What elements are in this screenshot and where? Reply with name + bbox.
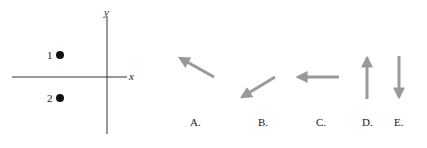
option-a: A. xyxy=(180,58,214,128)
option-b: B. xyxy=(242,77,275,128)
arrow-up-left-icon xyxy=(180,58,214,77)
point-1-dot xyxy=(56,51,64,59)
option-d-label: D. xyxy=(362,116,373,128)
option-c: C. xyxy=(298,77,339,128)
option-d: D. xyxy=(362,58,373,128)
point-1-label: 1 xyxy=(47,49,53,61)
y-axis-label: y xyxy=(103,6,109,18)
point-2-label: 2 xyxy=(47,92,53,104)
x-axis-label: x xyxy=(128,70,134,82)
point-2: 2 xyxy=(47,92,64,104)
option-b-label: B. xyxy=(258,116,268,128)
option-e: E. xyxy=(394,56,404,128)
option-a-label: A. xyxy=(190,116,201,128)
arrow-down-left-icon xyxy=(242,77,275,97)
point-2-dot xyxy=(56,94,64,102)
diagram-canvas: x y 1 2 A. B. C. D. E. xyxy=(0,0,427,148)
option-e-label: E. xyxy=(394,116,404,128)
option-c-label: C. xyxy=(316,116,326,128)
point-1: 1 xyxy=(47,49,64,61)
coordinate-axes: x y xyxy=(12,6,134,134)
